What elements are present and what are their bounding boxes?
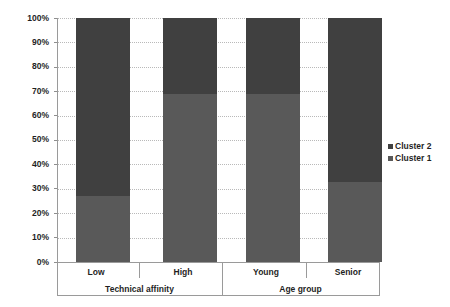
plot-area bbox=[57, 18, 379, 262]
y-tick-label: 70% bbox=[0, 87, 49, 96]
x-group-label-technical-affinity: Technical affinity bbox=[57, 284, 222, 294]
bar-segment-cluster-1[interactable] bbox=[328, 182, 382, 263]
x-axis-line bbox=[57, 262, 379, 263]
x-category-label-low: Low bbox=[56, 267, 136, 277]
bar-segment-cluster-2[interactable] bbox=[163, 18, 217, 94]
bar-segment-cluster-1[interactable] bbox=[76, 196, 130, 262]
group-separator bbox=[379, 262, 380, 295]
y-tick-label: 60% bbox=[0, 111, 49, 120]
bar-segment-cluster-2[interactable] bbox=[246, 18, 300, 94]
bar-young[interactable] bbox=[246, 18, 300, 262]
y-axis: 100% 90% 80% 70% 60% 50% 40% 30% 20% 10%… bbox=[0, 0, 53, 307]
y-tick-label: 50% bbox=[0, 135, 49, 144]
y-tick-label: 80% bbox=[0, 62, 49, 71]
y-tick-label: 20% bbox=[0, 209, 49, 218]
category-separator bbox=[139, 262, 140, 278]
legend-label: Cluster 2 bbox=[395, 140, 431, 152]
legend-item-cluster-1[interactable]: Cluster 1 bbox=[388, 152, 431, 164]
y-axis-line bbox=[57, 18, 58, 263]
bar-segment-cluster-1[interactable] bbox=[246, 94, 300, 262]
legend-swatch-icon bbox=[388, 156, 393, 161]
y-tick-label: 100% bbox=[0, 14, 49, 23]
stacked-bar-chart: 100% 90% 80% 70% 60% 50% 40% 30% 20% 10%… bbox=[0, 0, 450, 307]
x-category-label-high: High bbox=[143, 267, 223, 277]
legend: Cluster 2 Cluster 1 bbox=[388, 140, 431, 164]
legend-label: Cluster 1 bbox=[395, 152, 431, 164]
bar-segment-cluster-1[interactable] bbox=[163, 94, 217, 262]
x-category-label-senior: Senior bbox=[308, 267, 388, 277]
bar-senior[interactable] bbox=[328, 18, 382, 262]
y-tick-label: 30% bbox=[0, 184, 49, 193]
bar-low[interactable] bbox=[76, 18, 130, 262]
y-tick-label: 0% bbox=[0, 258, 49, 267]
x-category-label-young: Young bbox=[226, 267, 306, 277]
bar-high[interactable] bbox=[163, 18, 217, 262]
legend-item-cluster-2[interactable]: Cluster 2 bbox=[388, 140, 431, 152]
category-separator bbox=[306, 262, 307, 278]
y-tick-label: 10% bbox=[0, 233, 49, 242]
group-baseline bbox=[57, 295, 380, 296]
bar-segment-cluster-2[interactable] bbox=[76, 18, 130, 196]
y-tick-label: 90% bbox=[0, 38, 49, 47]
bar-segment-cluster-2[interactable] bbox=[328, 18, 382, 182]
legend-swatch-icon bbox=[388, 144, 393, 149]
x-group-label-age-group: Age group bbox=[222, 284, 379, 294]
y-tick-label: 40% bbox=[0, 160, 49, 169]
